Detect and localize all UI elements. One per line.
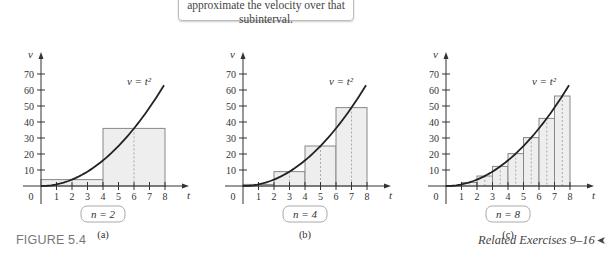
- x-tick-label: 6: [132, 191, 137, 202]
- x-tick-label: 6: [334, 191, 339, 202]
- x-axis-arrow-icon: [384, 184, 391, 189]
- y-tick-label: 30: [226, 133, 236, 144]
- x-tick-label: 3: [85, 191, 90, 202]
- y-axis-arrow-icon: [241, 52, 246, 59]
- x-axis-arrow-icon: [587, 184, 594, 189]
- x-tick-label: 7: [552, 191, 557, 202]
- y-tick-label: 30: [429, 133, 439, 144]
- y-tick-label: 30: [24, 133, 34, 144]
- panel-subtitle: (b): [299, 229, 312, 241]
- y-tick-label: 70: [226, 69, 236, 80]
- x-tick-label: 5: [521, 191, 526, 202]
- origin-label: 0: [434, 191, 439, 202]
- riemann-bar: [336, 108, 367, 186]
- y-tick-label: 20: [24, 149, 34, 160]
- y-tick-label: 40: [24, 117, 34, 128]
- curve-label: v = t²: [532, 75, 557, 87]
- y-tick-label: 40: [226, 117, 236, 128]
- x-tick-label: 8: [163, 191, 168, 202]
- curve-label: v = t²: [329, 75, 354, 87]
- x-tick-label: 5: [318, 191, 323, 202]
- origin-label: 0: [231, 191, 236, 202]
- arrow-icon: ➤: [597, 234, 606, 247]
- x-tick-label: 8: [365, 191, 370, 202]
- y-axis-label: v: [28, 48, 33, 60]
- y-tick-label: 20: [429, 149, 439, 160]
- chart-panel-c: 12345678102030405060700tvv = t²n = 8(c): [428, 48, 596, 241]
- x-tick-label: 7: [349, 191, 354, 202]
- x-tick-label: 5: [116, 191, 121, 202]
- x-tick-label: 3: [287, 191, 292, 202]
- panel-subtitle: (a): [97, 229, 109, 241]
- y-tick-label: 60: [429, 85, 439, 96]
- x-axis-label: t: [389, 189, 393, 201]
- figure-label: FIGURE 5.4: [16, 233, 86, 247]
- y-tick-label: 50: [24, 101, 34, 112]
- related-exercises-text: Related Exercises 9–16: [478, 233, 595, 247]
- y-tick-label: 50: [226, 101, 236, 112]
- curve-label: v = t²: [127, 75, 152, 87]
- origin-label: 0: [29, 191, 34, 202]
- x-tick-label: 2: [475, 191, 480, 202]
- y-axis-label: v: [230, 48, 235, 60]
- x-tick-label: 1: [54, 191, 59, 202]
- y-tick-label: 10: [24, 165, 34, 176]
- x-tick-label: 4: [101, 191, 106, 202]
- chart-panel-a: 12345678102030405060700tvv = t²n = 2(a): [23, 48, 191, 241]
- related-exercises: Related Exercises 9–16➤: [478, 233, 606, 248]
- x-tick-label: 2: [70, 191, 75, 202]
- riemann-sum-charts: 12345678102030405060700tvv = t²n = 2(a)1…: [0, 0, 616, 264]
- y-tick-label: 70: [24, 69, 34, 80]
- chart-panel-b: 12345678102030405060700tvv = t²n = 4(b): [225, 48, 393, 241]
- x-tick-label: 4: [303, 191, 308, 202]
- y-tick-label: 10: [429, 165, 439, 176]
- x-tick-label: 6: [537, 191, 542, 202]
- n-label: n = 8: [496, 208, 520, 220]
- y-tick-label: 70: [429, 69, 439, 80]
- y-tick-label: 60: [24, 85, 34, 96]
- y-tick-label: 40: [429, 117, 439, 128]
- y-axis-arrow-icon: [444, 52, 449, 59]
- y-tick-label: 10: [226, 165, 236, 176]
- n-label: n = 4: [293, 208, 317, 220]
- y-axis-arrow-icon: [39, 52, 44, 59]
- x-tick-label: 2: [272, 191, 277, 202]
- x-tick-label: 4: [506, 191, 511, 202]
- x-tick-label: 7: [147, 191, 152, 202]
- x-axis-label: t: [592, 189, 596, 201]
- x-tick-label: 8: [568, 191, 573, 202]
- y-tick-label: 50: [429, 101, 439, 112]
- x-tick-label: 1: [256, 191, 261, 202]
- x-tick-label: 1: [459, 191, 464, 202]
- y-tick-label: 20: [226, 149, 236, 160]
- x-axis-arrow-icon: [182, 184, 189, 189]
- n-label: n = 2: [91, 208, 115, 220]
- y-axis-label: v: [433, 48, 438, 60]
- y-tick-label: 60: [226, 85, 236, 96]
- x-tick-label: 3: [490, 191, 495, 202]
- x-axis-label: t: [187, 189, 191, 201]
